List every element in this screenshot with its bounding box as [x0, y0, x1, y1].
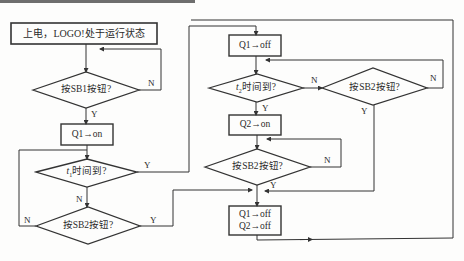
edge-label-t1-n: N [76, 195, 83, 204]
q1-off-node: Q1→off [229, 41, 281, 51]
edge-label-sb2b-n: N [430, 74, 437, 83]
edge-label-sb2b-y: Y [361, 107, 368, 116]
q1-on-node: Q1→on [61, 130, 113, 140]
sb2a-decision: 按SB2按钮? [36, 221, 140, 231]
all-off-node-line2: Q2→off [229, 222, 281, 232]
t2-decision: t2时间到? [209, 83, 303, 94]
sb2b-decision: 按SB2按钮? [322, 83, 427, 93]
edge-label-sb1-y: Y [91, 110, 98, 119]
all-off-node-line1: Q1→off [229, 210, 281, 220]
edge-label-sb2a-n: N [24, 216, 31, 225]
edge-label-t2-n: N [311, 76, 318, 85]
edge-label-sb1-n: N [148, 79, 155, 88]
edge-label-t1-y: Y [144, 161, 151, 170]
edge-label-sb2c-y: Y [270, 181, 277, 190]
t2-text: 时间到? [242, 82, 276, 92]
edge-label-sb2a-y: Y [150, 216, 157, 225]
start-node: 上电，LOGO!处于运行状态 [11, 29, 157, 39]
sb1-decision: 按SB1按钮? [33, 85, 139, 95]
edge-label-t2-y: Y [262, 104, 269, 113]
t1-text: 时间到? [72, 166, 106, 176]
t1-decision: t1时间到? [36, 167, 137, 178]
q2-on-node: Q2→on [229, 120, 281, 130]
sb2c-decision: 按SB2按钮? [205, 162, 310, 172]
edge-label-sb2c-n: N [324, 156, 331, 165]
